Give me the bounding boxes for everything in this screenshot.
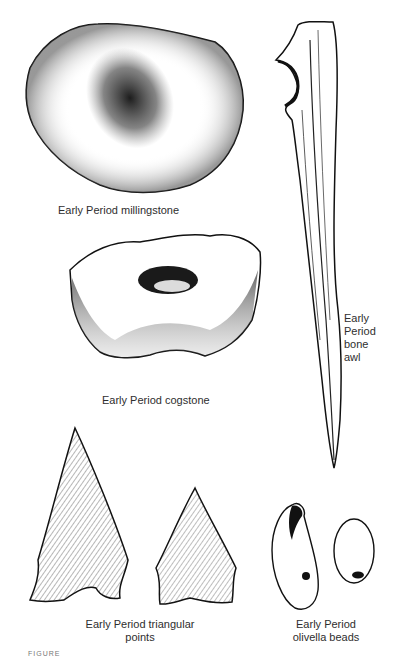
olivella-beads-label-line: olivella beads (286, 631, 366, 644)
bone-awl-drawing (276, 22, 341, 468)
triangular-points-label-line: Early Period triangular (78, 618, 202, 631)
figure-caption-partial: FIGURE (28, 650, 60, 657)
triangular-points-label-line: points (78, 631, 202, 644)
olivella-beads-label: Early Period olivella beads (286, 618, 366, 644)
triangular-points-drawing (30, 428, 236, 604)
cogstone-label: Early Period cogstone (102, 394, 210, 407)
bone-awl-label-line: awl (344, 351, 376, 364)
artifact-illustrations (0, 0, 399, 658)
bone-awl-label-line: bone (344, 338, 376, 351)
bone-awl-label: Early Period bone awl (344, 312, 376, 364)
millingstone-drawing (26, 24, 243, 193)
cogstone-drawing (70, 235, 261, 358)
olivella-beads-label-line: Early Period (286, 618, 366, 631)
olivella-beads-drawing (272, 504, 374, 610)
triangular-points-label: Early Period triangular points (78, 618, 202, 644)
bone-awl-label-line: Early (344, 312, 376, 325)
bone-awl-label-line: Period (344, 325, 376, 338)
millingstone-label: Early Period millingstone (58, 204, 179, 217)
